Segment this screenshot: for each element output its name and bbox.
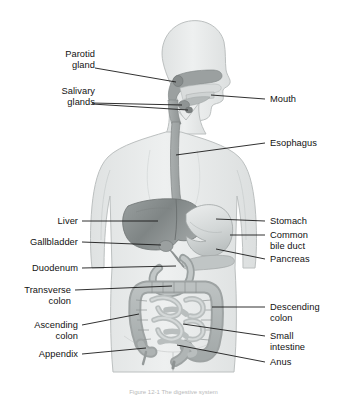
label-appendix: Appendix [6, 349, 78, 360]
label-small-intestine-line1: Small [270, 331, 294, 341]
label-common-bile-duct-line2: bile duct [270, 241, 305, 251]
label-gallbladder: Gallbladder [2, 237, 78, 248]
label-parotid-gland-line1: Parotid [65, 49, 95, 59]
label-mouth: Mouth [270, 94, 296, 105]
label-descending-colon-line1: Descending [270, 302, 320, 312]
label-salivary-glands-line1: Salivary [62, 86, 95, 96]
label-esophagus: Esophagus [270, 138, 317, 149]
label-parotid-gland: Parotidgland [20, 49, 95, 70]
stomach-organ [186, 205, 233, 257]
label-ascending-colon: Ascendingcolon [2, 320, 78, 341]
label-common-bile-duct-line1: Common [270, 230, 308, 240]
label-transverse-colon-line1: Transverse [24, 285, 71, 295]
label-salivary-glands: Salivaryglands [20, 86, 95, 107]
parotid-gland-node [173, 76, 183, 87]
label-small-intestine: Smallintestine [270, 331, 305, 352]
label-anus: Anus [270, 357, 291, 368]
label-descending-colon-line2: colon [270, 313, 292, 323]
label-ascending-colon-line2: colon [56, 331, 78, 341]
label-liver: Liver [10, 216, 78, 227]
label-duodenum: Duodenum [4, 263, 78, 274]
label-stomach: Stomach [270, 216, 307, 227]
leader-parotid-gland [95, 68, 176, 82]
label-ascending-colon-line1: Ascending [34, 320, 78, 330]
label-common-bile-duct: Commonbile duct [270, 230, 308, 251]
label-parotid-gland-line2: gland [72, 60, 95, 70]
anus-organ [173, 362, 174, 368]
label-descending-colon: Descendingcolon [270, 302, 320, 323]
figure-caption: Figure 12-1 The digestive system [0, 389, 347, 396]
label-small-intestine-line2: intestine [270, 342, 305, 352]
label-pancreas: Pancreas [270, 254, 310, 265]
label-transverse-colon: Transversecolon [0, 285, 71, 306]
label-salivary-glands-line2: glands [67, 97, 95, 107]
label-transverse-colon-line2: colon [49, 296, 71, 306]
